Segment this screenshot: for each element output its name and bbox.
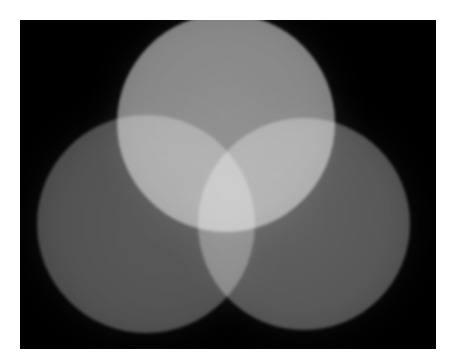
right-light-circle <box>198 118 410 330</box>
black-frame <box>20 20 436 349</box>
